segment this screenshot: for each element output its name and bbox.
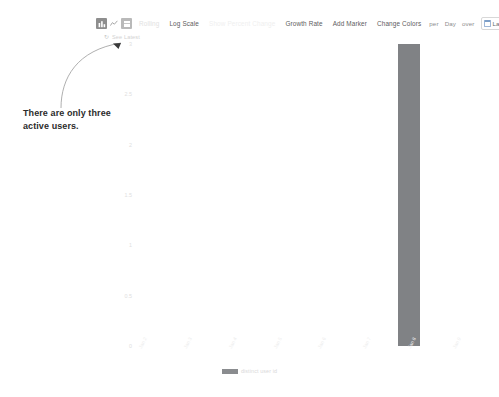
show-percent-change-button[interactable]: Show Percent Change (204, 17, 280, 30)
analytics-chart-page: Rolling Log Scale Show Percent Change Gr… (0, 0, 499, 397)
date-range-label: Last 7 Days (493, 19, 499, 28)
growth-rate-button[interactable]: Growth Rate (280, 17, 327, 30)
calendar-icon (484, 20, 491, 27)
date-range-button[interactable]: Last 7 Days (481, 17, 499, 30)
chart-bar[interactable] (398, 44, 420, 346)
interval-suffix-label: over (459, 17, 478, 30)
add-marker-button[interactable]: Add Marker (328, 17, 372, 30)
legend-swatch (222, 369, 238, 374)
line-chart-icon[interactable] (109, 18, 118, 29)
stacked-chart-icon[interactable] (121, 18, 132, 29)
chart-plot-area (118, 44, 476, 346)
bar-chart-icon[interactable] (96, 18, 107, 29)
interval-select[interactable]: Day (442, 17, 459, 30)
legend-series-label: distinct user id (241, 368, 277, 374)
interval-prefix-label: per (426, 17, 441, 30)
change-colors-button[interactable]: Change Colors (372, 17, 426, 30)
rolling-button[interactable]: Rolling (134, 17, 164, 30)
log-scale-button[interactable]: Log Scale (164, 17, 204, 30)
chart-legend: distinct user id (0, 368, 499, 374)
x-axis: Jan 2Jan 3Jan 4Jan 5Jan 6Jan 7Jan 8Jan 9 (118, 347, 476, 367)
chart-toolbar: Rolling Log Scale Show Percent Change Gr… (96, 17, 499, 30)
